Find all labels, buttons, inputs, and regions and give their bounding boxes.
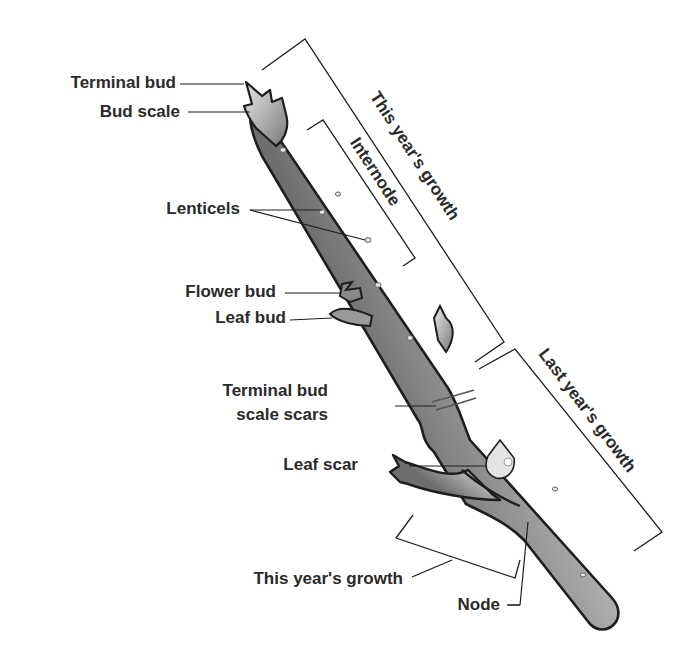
bracket-branch-growth <box>396 515 520 578</box>
label-branch-this-years-growth: This year's growth <box>0 569 403 588</box>
label-leaf-scar: Leaf scar <box>0 455 358 474</box>
terminal-bud <box>244 82 287 146</box>
label-lenticels: Lenticels <box>0 199 240 218</box>
label-terminal-bud: Terminal bud <box>0 73 176 92</box>
label-terminal-bud-scale-scars-1: Terminal bud <box>0 381 328 400</box>
leader-lines <box>180 84 528 605</box>
label-terminal-bud-scale-scars-2: scale scars <box>0 405 328 424</box>
label-node: Node <box>0 595 500 614</box>
side-bud-right <box>434 306 453 352</box>
label-flower-bud: Flower bud <box>0 282 276 301</box>
label-leaf-bud: Leaf bud <box>0 308 286 327</box>
label-bud-scale: Bud scale <box>0 102 180 121</box>
twig-diagram: Terminal bud Bud scale Lenticels Flower … <box>0 0 690 647</box>
